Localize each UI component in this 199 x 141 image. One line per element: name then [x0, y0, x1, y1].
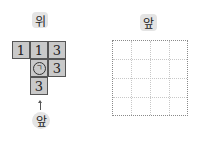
- circled-giyeok-marker: ㄱ: [33, 62, 46, 75]
- cell-r0-c0: 1: [12, 41, 30, 59]
- arrow-up-icon: [40, 102, 41, 110]
- cell-value: 1: [17, 43, 25, 58]
- cell-value: 3: [53, 43, 61, 58]
- cell-r1-c2: 3: [48, 59, 66, 77]
- top-label: 위: [32, 12, 48, 28]
- grid-line: [113, 97, 187, 98]
- cell-value: 1: [35, 43, 43, 58]
- cell-value: 3: [53, 61, 61, 76]
- grid-line: [113, 78, 187, 79]
- grid-line: [113, 59, 187, 60]
- front-view-answer-grid: [112, 40, 188, 116]
- cell-r2-c1: 3: [30, 77, 48, 95]
- cell-r0-c2: 3: [48, 41, 66, 59]
- cell-r0-c1: 1: [30, 41, 48, 59]
- front-view-label: 앞: [140, 14, 157, 31]
- front-direction-label: 앞: [32, 112, 50, 129]
- cell-value: 3: [35, 79, 43, 94]
- cell-r1-c1-unknown: ㄱ: [30, 59, 48, 77]
